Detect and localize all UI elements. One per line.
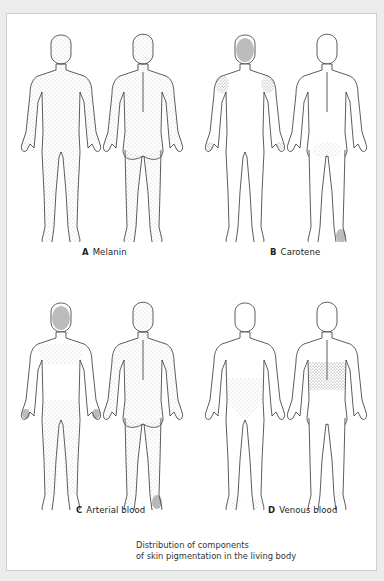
caption-line-1: Distribution of components	[136, 540, 296, 551]
figure-caption: Distribution of components of skin pigme…	[136, 540, 296, 562]
melanin-body-illustration	[14, 22, 194, 242]
panel-label-d: DVenous blood	[268, 505, 337, 515]
carotene-body-illustration	[198, 22, 378, 242]
panel-label-c: CArterial blood	[76, 505, 145, 515]
caption-line-2: of skin pigmentation in the living body	[136, 551, 296, 562]
arterial-blood-body-illustration	[14, 290, 194, 510]
panel-label-a: AMelanin	[82, 247, 127, 257]
venous-blood-body-illustration	[198, 290, 378, 510]
panel-label-b: BCarotene	[270, 247, 320, 257]
panel-venous-blood: DVenous blood	[198, 290, 378, 540]
panel-arterial-blood: CArterial blood	[14, 290, 194, 540]
panel-melanin: AMelanin	[14, 22, 194, 272]
panel-carotene: BCarotene	[198, 22, 378, 272]
